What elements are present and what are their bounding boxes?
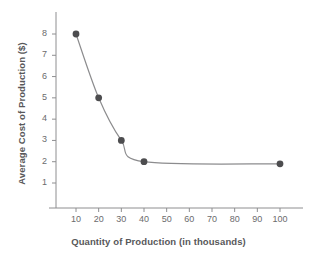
data-point-markers xyxy=(73,31,284,168)
chart-container: Average Cost of Production ($) Quantity … xyxy=(0,0,317,262)
y-tick-label: 6 xyxy=(31,71,47,81)
x-tick-label: 70 xyxy=(200,214,224,224)
y-tick-label: 7 xyxy=(31,49,47,59)
y-tick-label: 1 xyxy=(31,177,47,187)
y-tick-label: 8 xyxy=(31,28,47,38)
cost-curve xyxy=(76,34,280,164)
data-point xyxy=(277,160,284,167)
x-tick-label: 100 xyxy=(268,214,292,224)
x-tick-label: 50 xyxy=(155,214,179,224)
x-axis-ticks xyxy=(76,208,280,212)
data-point xyxy=(118,137,125,144)
x-tick-label: 60 xyxy=(177,214,201,224)
x-tick-label: 90 xyxy=(245,214,269,224)
y-tick-label: 5 xyxy=(31,92,47,102)
data-point xyxy=(73,31,80,38)
y-tick-label: 2 xyxy=(31,156,47,166)
x-tick-label: 10 xyxy=(64,214,88,224)
x-axis-title: Quantity of Production (in thousands) xyxy=(0,236,317,247)
x-tick-label: 30 xyxy=(109,214,133,224)
y-axis-title: Average Cost of Production ($) xyxy=(16,19,27,209)
data-point xyxy=(141,158,148,165)
y-tick-label: 3 xyxy=(31,134,47,144)
data-point xyxy=(95,94,102,101)
x-tick-label: 40 xyxy=(132,214,156,224)
x-tick-label: 80 xyxy=(223,214,247,224)
y-axis-ticks xyxy=(52,34,56,183)
x-tick-label: 20 xyxy=(87,214,111,224)
y-tick-label: 4 xyxy=(31,113,47,123)
